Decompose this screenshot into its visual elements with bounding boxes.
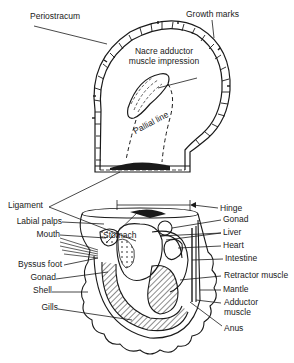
- label-growth-marks: Growth marks: [186, 10, 239, 20]
- label-retractor-muscle: Retractor muscle: [224, 271, 288, 281]
- label-gills: Gills: [0, 303, 58, 313]
- label-hinge: Hinge: [220, 204, 242, 214]
- label-heart: Heart: [223, 241, 244, 251]
- label-anus: Anus: [224, 324, 243, 334]
- ligament-shape: [110, 162, 170, 170]
- label-muscle: muscle: [224, 308, 251, 318]
- label-mouth: Mouth: [0, 230, 60, 240]
- label-ligament: Ligament: [8, 201, 43, 211]
- label-muscle-impression: muscle impression: [124, 57, 204, 67]
- label-mantle: Mantle: [223, 285, 249, 295]
- adductor-muscle-shape: [148, 266, 178, 314]
- label-stomach: Stomach: [103, 231, 137, 241]
- label-shell: Shell: [0, 286, 52, 296]
- label-periostracum: Periostracum: [30, 12, 80, 22]
- label-gonad-right: Gonad: [223, 215, 249, 225]
- anatomy-bottom: [80, 208, 216, 354]
- label-byssus-foot: Byssus foot: [0, 260, 62, 270]
- label-gonad-left: Gonad: [0, 273, 56, 283]
- byssus-threads: [60, 238, 98, 258]
- label-labial-palps: Labial palps: [0, 217, 62, 227]
- hinge-arrowhead: [190, 202, 196, 208]
- label-liver: Liver: [223, 228, 241, 238]
- stomach-dark: [130, 209, 166, 218]
- shell-valve-top: [92, 21, 230, 172]
- liver-shape: [118, 239, 134, 268]
- label-intestine: Intestine: [225, 254, 257, 264]
- oyster-anatomy-diagram: Periostracum Growth marks Nacre adductor…: [0, 0, 294, 363]
